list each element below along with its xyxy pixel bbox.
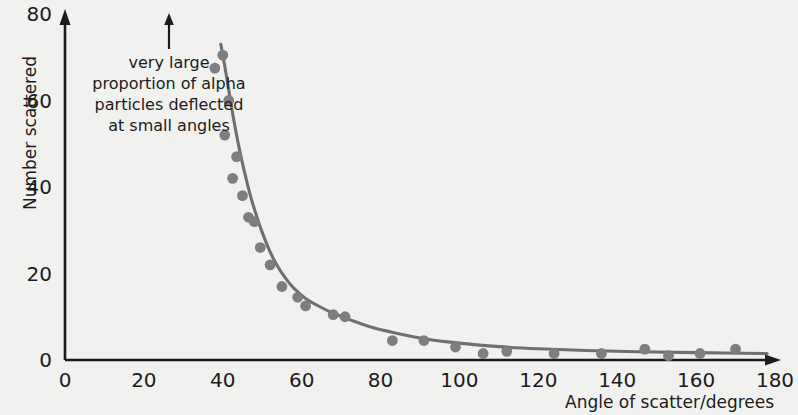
data-point-markers xyxy=(209,50,740,361)
data-point xyxy=(328,309,339,320)
data-point xyxy=(639,344,650,355)
data-point xyxy=(695,348,706,359)
annotation-text: very large proportion of alpha particles… xyxy=(88,52,250,136)
data-point xyxy=(237,190,248,201)
data-point xyxy=(265,259,276,270)
data-point xyxy=(478,348,489,359)
data-point xyxy=(450,342,461,353)
data-point xyxy=(501,346,512,357)
data-point xyxy=(730,344,741,355)
x-tick-label-80: 80 xyxy=(351,370,411,390)
x-tick-label-40: 40 xyxy=(193,370,253,390)
y-axis-arrowhead xyxy=(60,9,71,25)
y-tick-label-0: 0 xyxy=(0,350,52,370)
x-axis-title: Angle of scatter/degrees xyxy=(565,394,774,411)
y-tick-label-20: 20 xyxy=(0,264,52,284)
x-tick-label-60: 60 xyxy=(272,370,332,390)
data-point xyxy=(255,242,266,253)
data-point xyxy=(249,216,260,227)
x-tick-label-180: 180 xyxy=(745,370,798,390)
data-point xyxy=(300,301,311,312)
x-tick-label-120: 120 xyxy=(508,370,568,390)
data-point xyxy=(340,311,351,322)
y-axis xyxy=(60,9,71,360)
data-point xyxy=(292,292,303,303)
data-point xyxy=(663,350,674,361)
annotation-line-4: at small angles xyxy=(88,115,250,136)
data-point xyxy=(277,281,288,292)
annotation-line-1: very large xyxy=(88,52,250,73)
data-point xyxy=(549,348,560,359)
x-axis-arrowhead xyxy=(765,355,781,366)
data-point xyxy=(227,173,238,184)
data-point xyxy=(596,348,607,359)
annotation-arrow-icon xyxy=(164,13,174,49)
y-tick-label-80: 80 xyxy=(0,4,52,24)
x-tick-label-0: 0 xyxy=(35,370,95,390)
annotation-line-3: particles deflected xyxy=(88,94,250,115)
data-point xyxy=(419,335,430,346)
y-axis-title: Number scattered xyxy=(22,56,39,210)
x-tick-label-140: 140 xyxy=(587,370,647,390)
annotation-line-2: proportion of alpha xyxy=(88,73,250,94)
x-tick-label-160: 160 xyxy=(666,370,726,390)
data-point xyxy=(387,335,398,346)
x-tick-label-100: 100 xyxy=(429,370,489,390)
data-point xyxy=(231,151,242,162)
x-tick-label-20: 20 xyxy=(114,370,174,390)
